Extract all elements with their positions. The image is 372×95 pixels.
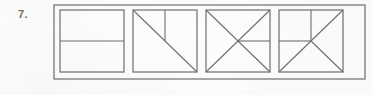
diagonal-center-to-top-right-line (311, 10, 343, 41)
shape-division-figure (0, 0, 372, 95)
diagonal-center-to-bottom-right-line (311, 41, 343, 72)
square-halves-horizontal (60, 10, 124, 72)
square-both-diagonals-with-right-horizontal (206, 10, 270, 72)
figure-root: 7. (0, 0, 372, 95)
square-quarter-cross-with-diagonals (279, 10, 343, 72)
square-diagonal-with-vertical (133, 10, 197, 72)
diagonal-center-to-bottom-left-line (279, 41, 311, 72)
